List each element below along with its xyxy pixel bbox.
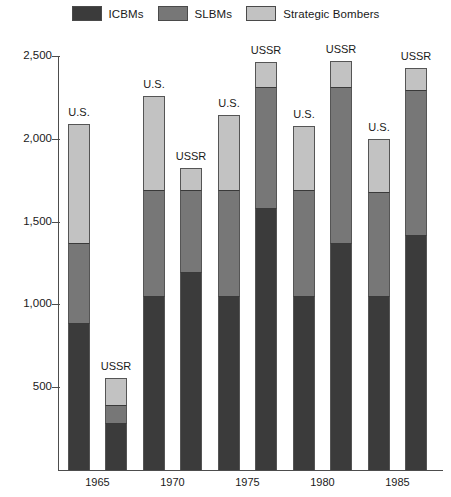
bar-segment-1965-ussr-strategic-bombers <box>105 378 127 404</box>
plot-area: 5001,0001,5002,0002,500 1965197019751980… <box>0 0 451 497</box>
y-tick-label: 1,500 <box>23 215 52 227</box>
bar-segment-1975-us-strategic-bombers <box>218 115 240 190</box>
bar-segment-1975-us-icbms <box>218 296 240 470</box>
bar-segment-1985-us-icbms <box>368 296 390 470</box>
bar-total-label-1985-ussr: USSR <box>396 50 436 62</box>
y-tick-label: 2,500 <box>23 49 52 61</box>
bar-segment-1975-us-slbms <box>218 190 240 296</box>
bar-total-label-1975-us: U.S. <box>209 97 249 109</box>
x-tick-label-1975: 1975 <box>228 476 268 488</box>
y-tick-mark <box>52 304 60 305</box>
bar-segment-1965-ussr-icbms <box>105 423 127 470</box>
bar-segment-1970-ussr-icbms <box>180 272 202 470</box>
y-axis-line <box>58 56 59 471</box>
bar-total-label-1965-ussr: USSR <box>96 360 136 372</box>
bar-segment-1980-us-strategic-bombers <box>293 126 315 190</box>
bar-segment-1985-us-strategic-bombers <box>368 139 390 192</box>
bar-segment-1980-ussr-icbms <box>330 243 352 470</box>
stacked-bar-chart: ICBMs SLBMs Strategic Bombers 5001,0001,… <box>0 0 451 497</box>
x-tick-label-1965: 1965 <box>78 476 118 488</box>
bar-total-label-1970-us: U.S. <box>134 78 174 90</box>
bar-segment-1975-ussr-icbms <box>255 208 277 470</box>
x-tick-label-1970: 1970 <box>153 476 193 488</box>
bar-segment-1970-ussr-slbms <box>180 190 202 272</box>
bar-total-label-1970-ussr: USSR <box>171 150 211 162</box>
y-tick-mark <box>52 56 60 57</box>
y-tick-mark <box>52 139 60 140</box>
bar-segment-1965-us-slbms <box>68 243 90 322</box>
bar-segment-1965-us-strategic-bombers <box>68 124 90 243</box>
y-tick-mark <box>52 387 60 388</box>
bar-segment-1980-ussr-slbms <box>330 87 352 243</box>
bar-segment-1965-us-icbms <box>68 323 90 470</box>
bar-segment-1980-ussr-strategic-bombers <box>330 61 352 87</box>
bar-segment-1980-us-icbms <box>293 296 315 470</box>
y-tick-label: 1,000 <box>23 297 52 309</box>
y-tick-label: 2,000 <box>23 132 52 144</box>
x-axis-line <box>58 470 443 471</box>
bar-segment-1975-ussr-strategic-bombers <box>255 62 277 88</box>
y-tick-label: 500 <box>33 380 52 392</box>
bar-total-label-1985-us: U.S. <box>359 121 399 133</box>
bar-segment-1985-us-slbms <box>368 192 390 296</box>
x-tick-label-1980: 1980 <box>303 476 343 488</box>
bar-segment-1985-ussr-icbms <box>405 235 427 470</box>
bar-total-label-1980-us: U.S. <box>284 108 324 120</box>
x-tick-label-1985: 1985 <box>378 476 418 488</box>
bar-total-label-1965-us: U.S. <box>59 106 99 118</box>
bar-total-label-1975-ussr: USSR <box>246 44 286 56</box>
bar-segment-1980-us-slbms <box>293 190 315 296</box>
bar-segment-1965-ussr-slbms <box>105 405 127 423</box>
bar-segment-1970-us-strategic-bombers <box>143 96 165 190</box>
bar-segment-1985-ussr-slbms <box>405 90 427 235</box>
bar-total-label-1980-ussr: USSR <box>321 43 361 55</box>
bar-segment-1985-ussr-strategic-bombers <box>405 68 427 90</box>
bar-segment-1970-us-slbms <box>143 190 165 296</box>
bar-segment-1970-ussr-strategic-bombers <box>180 168 202 190</box>
bar-segment-1975-ussr-slbms <box>255 87 277 207</box>
y-tick-mark <box>52 222 60 223</box>
bar-segment-1970-us-icbms <box>143 296 165 470</box>
